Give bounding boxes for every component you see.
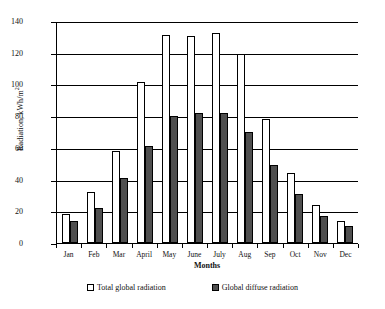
radiation-bar-chart: Radiation, kWh/m2 JanFebMarAprilMayJuneJ… bbox=[0, 0, 385, 309]
y-tick-mark-20 bbox=[51, 212, 56, 213]
x-tick-mark-10 bbox=[308, 244, 309, 248]
bar-group-mar bbox=[107, 22, 132, 243]
bar-group-july bbox=[207, 22, 232, 243]
bar-mar-total bbox=[112, 151, 120, 243]
bars-layer bbox=[57, 22, 358, 243]
x-tick-label-july: July bbox=[207, 250, 232, 259]
y-tick-label-120: 120 bbox=[0, 50, 23, 58]
bar-group-dec bbox=[333, 22, 358, 243]
y-tick-mark-140 bbox=[51, 22, 56, 23]
x-tick-mark-6 bbox=[207, 244, 208, 248]
bar-june-total bbox=[187, 36, 195, 243]
y-tick-label-140: 140 bbox=[0, 18, 23, 26]
bar-group-oct bbox=[283, 22, 308, 243]
x-tick-mark-7 bbox=[232, 244, 233, 248]
bar-feb-total bbox=[87, 192, 95, 243]
legend-label-1: Total global radiation bbox=[97, 283, 166, 292]
bar-jan-total bbox=[62, 214, 70, 243]
x-tick-label-feb: Feb bbox=[81, 250, 106, 259]
bar-april-total bbox=[137, 82, 145, 243]
bar-sep-total bbox=[262, 119, 270, 243]
x-tick-label-june: June bbox=[182, 250, 207, 259]
bar-group-may bbox=[157, 22, 182, 243]
bar-group-jan bbox=[57, 22, 82, 243]
x-axis-tick-marks bbox=[56, 244, 358, 248]
y-tick-label-40: 40 bbox=[0, 177, 23, 185]
x-tick-mark-3 bbox=[132, 244, 133, 248]
bar-sep-diffuse bbox=[270, 165, 278, 243]
bar-group-aug bbox=[233, 22, 258, 243]
y-tick-label-100: 100 bbox=[0, 81, 23, 89]
x-tick-label-sep: Sep bbox=[257, 250, 282, 259]
legend-label-2: Global diffuse radiation bbox=[222, 283, 298, 292]
bar-april-diffuse bbox=[145, 146, 153, 243]
y-tick-label-0: 0 bbox=[0, 240, 23, 248]
x-tick-label-dec: Dec bbox=[333, 250, 358, 259]
y-tick-mark-60 bbox=[51, 149, 56, 150]
x-axis-labels: JanFebMarAprilMayJuneJulyAugSepOctNovDec bbox=[56, 250, 358, 259]
bar-nov-diffuse bbox=[320, 216, 328, 243]
bar-group-nov bbox=[308, 22, 333, 243]
y-tick-mark-80 bbox=[51, 117, 56, 118]
x-tick-label-nov: Nov bbox=[308, 250, 333, 259]
bar-feb-diffuse bbox=[95, 208, 103, 243]
bar-may-diffuse bbox=[170, 116, 178, 243]
bar-june-diffuse bbox=[195, 113, 203, 243]
x-tick-mark-2 bbox=[106, 244, 107, 248]
bar-aug-total bbox=[237, 54, 245, 243]
bar-group-sep bbox=[258, 22, 283, 243]
y-tick-label-60: 60 bbox=[0, 145, 23, 153]
plot-area bbox=[56, 22, 358, 244]
legend-item-1: Total global radiation bbox=[87, 283, 166, 292]
x-tick-label-jan: Jan bbox=[56, 250, 81, 259]
y-tick-label-80: 80 bbox=[0, 113, 23, 121]
bar-dec-diffuse bbox=[345, 226, 353, 243]
bar-group-june bbox=[182, 22, 207, 243]
chart-legend: Total global radiationGlobal diffuse rad… bbox=[0, 283, 385, 292]
bar-july-total bbox=[212, 33, 220, 243]
bar-july-diffuse bbox=[220, 113, 228, 243]
bar-oct-diffuse bbox=[295, 194, 303, 243]
bar-aug-diffuse bbox=[245, 132, 253, 243]
bar-nov-total bbox=[312, 205, 320, 243]
y-tick-mark-40 bbox=[51, 181, 56, 182]
legend-item-2: Global diffuse radiation bbox=[212, 283, 298, 292]
x-tick-mark-9 bbox=[283, 244, 284, 248]
x-tick-label-aug: Aug bbox=[232, 250, 257, 259]
x-tick-label-mar: Mar bbox=[106, 250, 131, 259]
x-tick-mark-8 bbox=[257, 244, 258, 248]
bar-group-feb bbox=[82, 22, 107, 243]
x-tick-mark-5 bbox=[182, 244, 183, 248]
x-tick-mark-0 bbox=[56, 244, 57, 248]
bar-oct-total bbox=[287, 173, 295, 243]
x-axis-title: Months bbox=[56, 261, 358, 270]
bar-jan-diffuse bbox=[70, 221, 78, 243]
y-tick-label-20: 20 bbox=[0, 208, 23, 216]
bar-group-april bbox=[132, 22, 157, 243]
y-tick-mark-0 bbox=[51, 244, 56, 245]
bar-mar-diffuse bbox=[120, 178, 128, 243]
x-tick-label-may: May bbox=[157, 250, 182, 259]
x-tick-mark-11 bbox=[333, 244, 334, 248]
legend-swatch-total bbox=[87, 284, 94, 291]
x-tick-mark-4 bbox=[157, 244, 158, 248]
bar-dec-total bbox=[337, 221, 345, 243]
bar-may-total bbox=[162, 35, 170, 243]
x-tick-label-oct: Oct bbox=[283, 250, 308, 259]
x-tick-label-april: April bbox=[132, 250, 157, 259]
y-tick-mark-100 bbox=[51, 85, 56, 86]
x-tick-mark-12 bbox=[358, 244, 359, 248]
x-tick-mark-1 bbox=[81, 244, 82, 248]
legend-swatch-diffuse bbox=[212, 284, 219, 291]
y-tick-mark-120 bbox=[51, 54, 56, 55]
